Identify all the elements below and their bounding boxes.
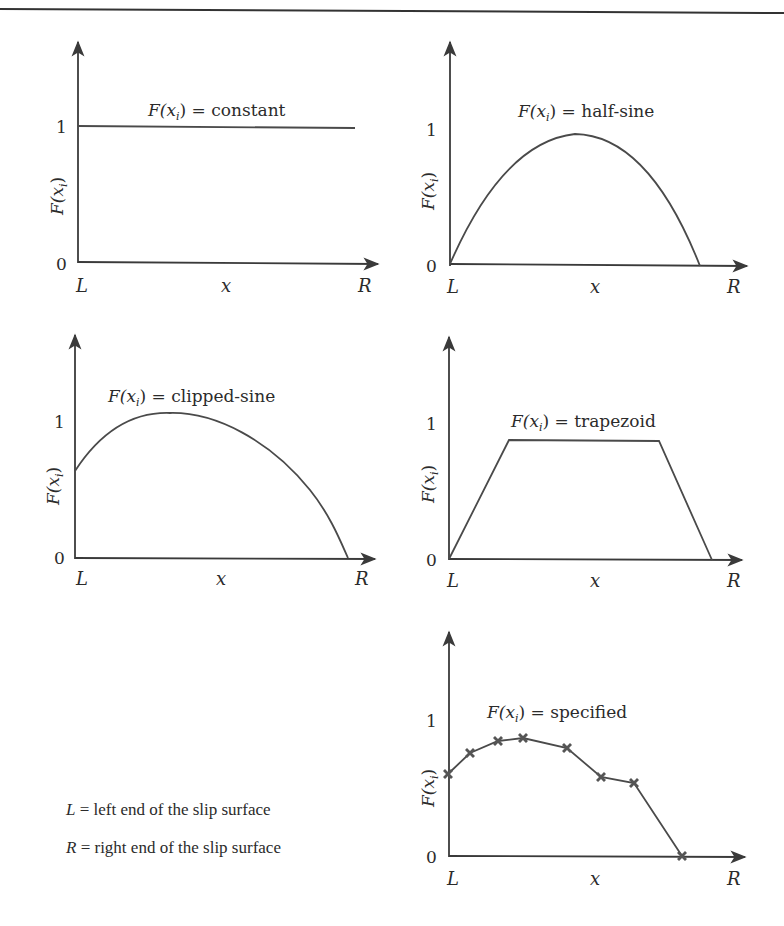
panel-half-sine: [450, 42, 747, 266]
curve-specified: [448, 738, 682, 856]
x-tick-left: L: [75, 568, 88, 589]
y-tick-one: 1: [426, 711, 437, 731]
panel-clipped-sine: [75, 335, 375, 559]
y-tick-zero: 0: [426, 847, 437, 867]
y-axis-label: F(xi): [43, 467, 66, 506]
x-tick-left: L: [75, 275, 88, 296]
figure-canvas: F(xi) = constant 1 0 L x R F(xi) F(xi) =…: [0, 0, 784, 926]
x-axis-label: x: [590, 276, 600, 297]
x-tick-right: R: [726, 868, 741, 889]
y-tick-zero: 0: [56, 254, 67, 274]
x-axis: [75, 558, 375, 559]
y-axis-label: F(xi): [418, 465, 441, 504]
x-axis-label: x: [590, 570, 600, 591]
header-rule: [0, 9, 784, 13]
x-tick-right: R: [357, 275, 372, 296]
curve-clipped-sine: [75, 413, 348, 558]
x-tick-left: L: [446, 570, 459, 591]
x-marker-icon: [465, 748, 475, 758]
y-tick-zero: 0: [426, 256, 437, 276]
x-tick-right: R: [726, 276, 741, 297]
x-tick-left: L: [446, 868, 459, 889]
x-tick-right: R: [726, 570, 741, 591]
y-tick-one: 1: [54, 412, 65, 432]
panel-constant: [78, 42, 378, 264]
y-tick-one: 1: [426, 120, 437, 140]
x-axis: [449, 856, 745, 857]
x-axis: [78, 262, 378, 264]
curve-trapezoid: [449, 440, 712, 560]
y-tick-zero: 0: [426, 550, 437, 570]
panel-specified: [443, 632, 745, 861]
x-axis: [450, 264, 747, 266]
legend-symbol: R: [66, 838, 76, 857]
panel-title-clipped-sine: F(xi) = clipped-sine: [107, 386, 275, 409]
x-axis-label: x: [221, 275, 231, 296]
y-axis-label: F(xi): [418, 769, 441, 808]
y-axis-label: F(xi): [418, 172, 441, 211]
panel-title-half-sine: F(xi) = half-sine: [517, 101, 654, 124]
panel-title-specified: F(xi) = specified: [486, 702, 627, 725]
legend-text: = right end of the slip surface: [76, 838, 281, 857]
legend-text: = left end of the slip surface: [75, 800, 270, 819]
panel-title-trapezoid: F(xi) = trapezoid: [510, 411, 656, 434]
x-tick-left: L: [446, 276, 459, 297]
x-axis-label: x: [590, 868, 600, 889]
x-axis-label: x: [216, 568, 226, 589]
y-tick-one: 1: [56, 117, 67, 137]
y-axis-label: F(xi): [47, 177, 70, 216]
x-marker-icon: [443, 769, 453, 779]
curve-half-sine: [450, 134, 700, 266]
x-tick-right: R: [354, 568, 369, 589]
data-markers: [443, 733, 687, 861]
legend-left-end: L = left end of the slip surface: [66, 800, 271, 820]
y-tick-one: 1: [426, 414, 437, 434]
panel-trapezoid: [449, 337, 742, 560]
y-tick-zero: 0: [54, 548, 65, 568]
panel-title-constant: F(xi) = constant: [147, 100, 286, 123]
curve-constant: [78, 126, 355, 128]
legend-right-end: R = right end of the slip surface: [66, 838, 281, 858]
x-axis: [449, 559, 742, 560]
